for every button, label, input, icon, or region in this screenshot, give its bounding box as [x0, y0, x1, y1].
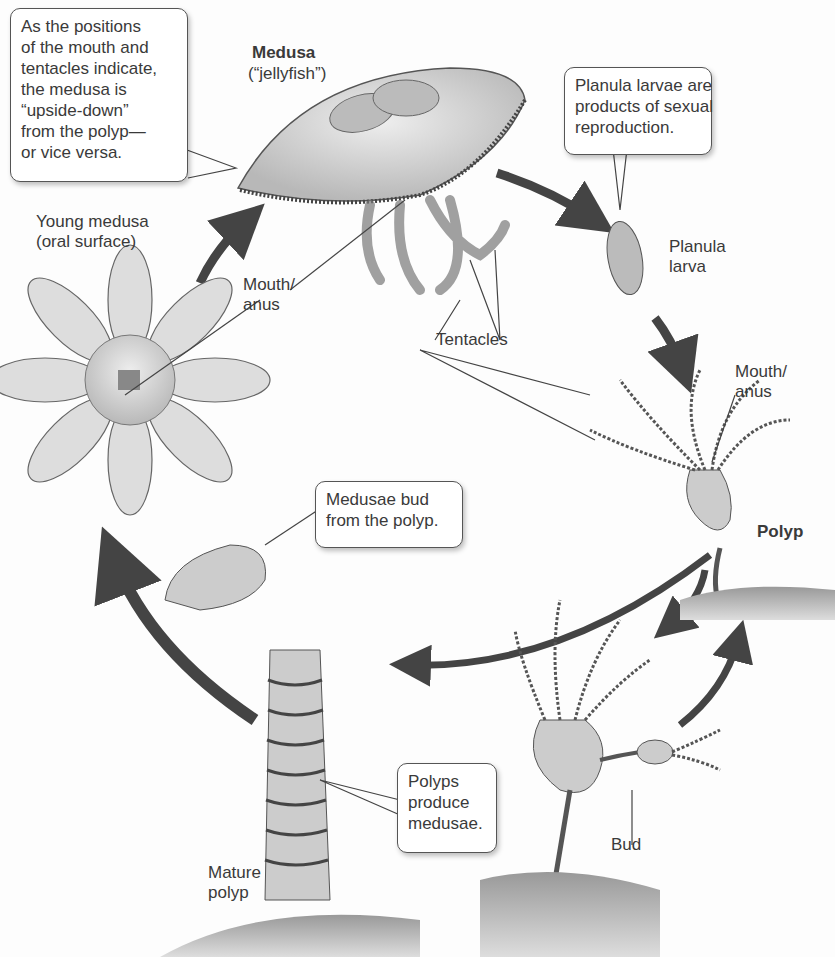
- callout-planula: Planula larvae are products of sexual re…: [564, 67, 712, 155]
- polyp-label: Polyp: [757, 522, 803, 542]
- medusa-subtitle: (“jellyfish”): [248, 64, 326, 84]
- planula-illustration: [602, 219, 648, 298]
- arrow-young-to-medusa: [200, 222, 245, 283]
- arrow-medusa-to-planula: [497, 173, 592, 218]
- arrow-bud-to-polyp: [680, 640, 738, 725]
- medusae-bud-illustration: [165, 545, 266, 610]
- mouth-anus-polyp-label: Mouth/ anus: [735, 362, 787, 402]
- bud-label: Bud: [611, 835, 641, 855]
- callout-upside-down: As the positions of the mouth and tentac…: [10, 8, 188, 182]
- callout-medusae-bud: Medusae bud from the polyp.: [315, 481, 463, 548]
- polyp-illustration: [590, 370, 835, 620]
- medusa-illustration: [238, 68, 525, 290]
- mouth-anus-medusa-label: Mouth/ anus: [243, 275, 295, 315]
- callout-polyps-produce: Polyps produce medusae.: [397, 763, 497, 853]
- mature-polyp-label: Mature polyp: [208, 863, 261, 903]
- arrow-polyp-to-mature: [410, 555, 710, 665]
- arrow-planula-to-polyp: [655, 318, 682, 368]
- planula-label: Planula larva: [669, 237, 726, 277]
- young-medusa-label: Young medusa (oral surface): [36, 212, 149, 252]
- medusa-label: Medusa: [252, 43, 315, 63]
- mature-polyp-illustration: [160, 650, 420, 957]
- life-cycle-diagram: Medusa (“jellyfish”) Young medusa (oral …: [0, 0, 835, 957]
- tentacles-label: Tentacles: [436, 330, 508, 350]
- young-medusa-illustration: [0, 245, 270, 515]
